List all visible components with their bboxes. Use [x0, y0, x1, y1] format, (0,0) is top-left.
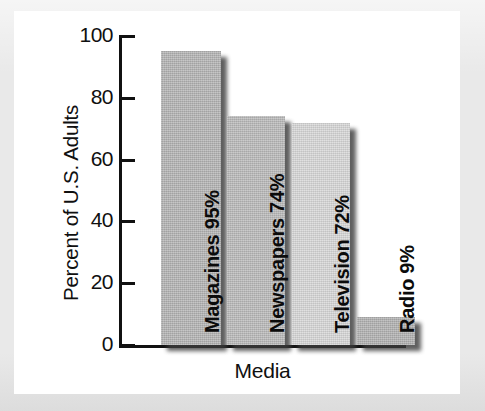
y-axis-tick: 0	[122, 344, 135, 347]
bar-label-television: Television 72%	[331, 195, 354, 333]
x-axis-title: Media	[119, 359, 406, 383]
y-axis-tick: 100	[122, 35, 135, 38]
bar-label-magazines: Magazines 95%	[201, 190, 224, 333]
y-axis-tick-label: 100	[79, 23, 113, 47]
plot-area: Percent of U.S. Adults 100806040200 Maga…	[14, 11, 460, 394]
y-axis-tick-label: 80	[91, 85, 113, 109]
y-axis-tick-label: 60	[91, 147, 113, 171]
y-axis-tick-label: 20	[91, 270, 113, 294]
y-axis-tick-label: 0	[102, 332, 113, 356]
y-axis-tick: 40	[122, 220, 135, 223]
y-axis-tick-label: 40	[91, 208, 113, 232]
bar-label-newspapers: Newspapers 74%	[266, 174, 289, 333]
chart-card: Percent of U.S. Adults 100806040200 Maga…	[14, 11, 460, 394]
y-axis-tick: 60	[122, 159, 135, 162]
y-axis-tick: 80	[122, 97, 135, 100]
figure-frame: Percent of U.S. Adults 100806040200 Maga…	[0, 0, 485, 411]
bar-label-radio: Radio 9%	[396, 245, 419, 333]
y-axis-line	[119, 35, 122, 348]
y-axis-title: Percent of U.S. Adults	[59, 83, 83, 323]
y-axis-tick: 20	[122, 282, 135, 285]
